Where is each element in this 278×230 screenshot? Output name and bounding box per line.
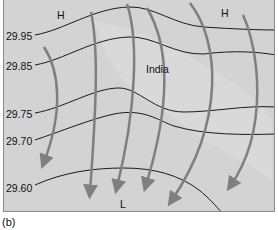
region-label-india: India bbox=[146, 64, 169, 75]
weather-map: H H L India 29.95 29.85 29.75 29.70 29.6… bbox=[3, 0, 275, 212]
isobar-label-29-95: 29.95 bbox=[6, 31, 32, 42]
high-pressure-label-left: H bbox=[57, 10, 65, 21]
figure-caption: (b) bbox=[2, 216, 15, 228]
isobar-label-29-70: 29.70 bbox=[6, 136, 32, 147]
isobar-label-29-60: 29.60 bbox=[6, 183, 32, 194]
map-canvas bbox=[4, 0, 275, 212]
wind-arrow-2 bbox=[90, 12, 96, 192]
isobar-29-95 bbox=[35, 7, 275, 35]
low-pressure-label: L bbox=[120, 199, 126, 210]
wind-arrow-1 bbox=[44, 47, 57, 162]
isobar-29-60 bbox=[35, 168, 222, 212]
high-pressure-label-right: H bbox=[221, 8, 229, 19]
isobar-label-29-85: 29.85 bbox=[6, 61, 32, 72]
isobar-label-29-75: 29.75 bbox=[6, 109, 32, 120]
